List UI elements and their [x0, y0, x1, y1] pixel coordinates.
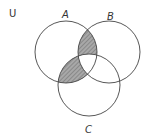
set-a-label: A	[61, 9, 69, 20]
shaded-region-a-and-c-only	[0, 0, 146, 136]
set-b-label: B	[107, 11, 114, 22]
set-c-label: C	[85, 124, 92, 135]
venn-diagram: U A B C	[0, 0, 146, 136]
universe-label: U	[9, 8, 16, 19]
